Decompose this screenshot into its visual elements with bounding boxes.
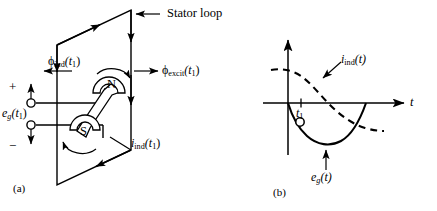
panel-b (263, 40, 404, 170)
panel-a-caption: (a) (13, 182, 25, 194)
t-axis-label: t (410, 95, 413, 110)
pole-south-label: S (80, 124, 87, 139)
stator-loop-shape (57, 10, 131, 185)
eg-label-b: eg(t) (311, 170, 332, 185)
terminal-positive (27, 99, 35, 107)
panel-b-caption: (b) (273, 186, 286, 198)
phi-excit-label: ϕexcit(t1) (162, 63, 200, 78)
t1-label: t1 (296, 106, 303, 121)
polarity-minus-label: − (9, 138, 16, 154)
pole-north-label: N (107, 77, 116, 92)
i-ind-label-a: iind(t1) (131, 136, 160, 151)
rotation-arrow-bottom (63, 142, 96, 153)
stator-loop-label: Stator loop (167, 6, 222, 21)
figure-canvas (0, 0, 437, 211)
panel-a (27, 10, 160, 185)
i-ind-leader-arrow (323, 62, 341, 78)
eg-source-label: eg(t1) (2, 106, 27, 121)
i-ind-label-b: iind(t) (341, 52, 366, 67)
phi-ind-label: ϕind(t1) (48, 54, 80, 69)
terminal-negative (27, 121, 35, 129)
polarity-plus-label: + (9, 79, 16, 95)
i-ind-leader-line (110, 137, 131, 150)
